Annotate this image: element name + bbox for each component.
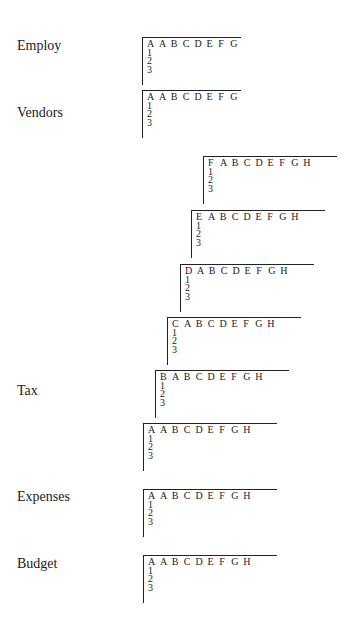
column-header: C bbox=[232, 213, 244, 222]
row-number: 3 bbox=[160, 399, 267, 408]
column-header: D bbox=[208, 373, 220, 382]
column-header: A bbox=[172, 373, 184, 382]
row-number: 3 bbox=[148, 518, 255, 527]
sheet-grid: FABCDEFGH123 bbox=[208, 159, 315, 193]
row-number: 3 bbox=[148, 584, 255, 593]
column-header: G bbox=[279, 213, 291, 222]
row-number: 3 bbox=[185, 293, 292, 302]
column-header: D bbox=[196, 426, 208, 435]
sheet-grid: CABCDEFGH123 bbox=[172, 320, 279, 354]
row-number: 2 bbox=[196, 230, 303, 239]
column-header: A bbox=[160, 426, 172, 435]
column-header: H bbox=[243, 492, 255, 501]
sheet-grid: AABCDEFGH123 bbox=[148, 492, 255, 526]
sheet-grid: AABCDEFGH123 bbox=[148, 558, 255, 592]
column-header: B bbox=[172, 426, 184, 435]
column-header: A bbox=[159, 40, 171, 49]
row-number: 3 bbox=[172, 346, 279, 355]
sheet-grid: BABCDEFGH123 bbox=[160, 373, 267, 407]
column-header: G bbox=[231, 426, 243, 435]
row-number: 1 bbox=[148, 501, 255, 510]
row-number: 2 bbox=[148, 575, 255, 584]
column-header: E bbox=[244, 267, 256, 276]
column-header: A bbox=[220, 159, 232, 168]
row-number: 3 bbox=[147, 66, 242, 75]
column-header: A bbox=[159, 93, 171, 102]
column-header: F bbox=[219, 558, 231, 567]
row-number: 1 bbox=[172, 329, 279, 338]
column-header-row: AABCDEFGH bbox=[148, 558, 255, 567]
column-header: H bbox=[243, 426, 255, 435]
row-number: 1 bbox=[147, 49, 242, 58]
sheet-grid: AABCDEFGH123 bbox=[148, 426, 255, 460]
column-header: E bbox=[207, 558, 219, 567]
column-header: D bbox=[196, 492, 208, 501]
row-number: 1 bbox=[208, 168, 315, 177]
column-header: E bbox=[219, 373, 231, 382]
sheet-vendors: AABCDEFG123 bbox=[142, 90, 241, 138]
column-header: D bbox=[244, 213, 256, 222]
column-header: F bbox=[231, 373, 243, 382]
column-header: E bbox=[206, 40, 218, 49]
column-header: D bbox=[220, 320, 232, 329]
label-expenses: Expenses bbox=[17, 490, 70, 504]
column-header: A bbox=[160, 492, 172, 501]
column-header-row: AABCDEFGH bbox=[148, 492, 255, 501]
column-header: F bbox=[267, 213, 279, 222]
sheet-grid: EABCDEFGH123 bbox=[196, 213, 303, 247]
column-header: G bbox=[268, 267, 280, 276]
row-number: 2 bbox=[160, 390, 267, 399]
column-header: C bbox=[196, 373, 208, 382]
row-number: 1 bbox=[185, 276, 292, 285]
row-number: 3 bbox=[148, 452, 255, 461]
column-header: C bbox=[221, 267, 233, 276]
column-header: E bbox=[267, 159, 279, 168]
sheet-expenses: AABCDEFGH123 bbox=[143, 489, 277, 537]
column-header: G bbox=[230, 40, 242, 49]
sheet-tax-e: EABCDEFGH123 bbox=[191, 210, 325, 258]
sheet-budget: AABCDEFGH123 bbox=[143, 555, 277, 603]
column-header: B bbox=[171, 40, 183, 49]
column-header-row: AABCDEFGH bbox=[148, 426, 255, 435]
column-header-row: EABCDEFGH bbox=[196, 213, 303, 222]
column-header-row: AABCDEFG bbox=[147, 40, 242, 49]
row-number: 2 bbox=[147, 110, 242, 119]
label-vendors: Vendors bbox=[17, 106, 63, 120]
row-number: 3 bbox=[196, 239, 303, 248]
column-header: E bbox=[207, 492, 219, 501]
column-header: D bbox=[256, 159, 268, 168]
row-number: 1 bbox=[196, 222, 303, 231]
column-header: C bbox=[183, 93, 195, 102]
column-header: G bbox=[230, 93, 242, 102]
column-header: E bbox=[207, 426, 219, 435]
sheet-employ: AABCDEFG123 bbox=[142, 37, 241, 85]
column-header: H bbox=[291, 213, 303, 222]
sheet-tax-d: DABCDEFGH123 bbox=[180, 264, 314, 312]
column-header: F bbox=[279, 159, 291, 168]
column-header: E bbox=[255, 213, 267, 222]
column-header: G bbox=[231, 558, 243, 567]
column-header: B bbox=[172, 558, 184, 567]
label-budget: Budget bbox=[17, 557, 57, 571]
column-header: A bbox=[184, 320, 196, 329]
column-header: B bbox=[220, 213, 232, 222]
row-number: 2 bbox=[148, 443, 255, 452]
column-header-row: AABCDEFG bbox=[147, 93, 242, 102]
column-header: D bbox=[195, 40, 207, 49]
row-number: 1 bbox=[147, 102, 242, 111]
label-employ: Employ bbox=[17, 39, 61, 53]
row-number: 3 bbox=[208, 185, 315, 194]
column-header: B bbox=[196, 320, 208, 329]
column-header: H bbox=[303, 159, 315, 168]
column-header: H bbox=[280, 267, 292, 276]
label-tax: Tax bbox=[17, 384, 38, 398]
column-header: D bbox=[196, 558, 208, 567]
column-header: A bbox=[197, 267, 209, 276]
row-number: 3 bbox=[147, 119, 242, 128]
column-header: H bbox=[267, 320, 279, 329]
column-header: F bbox=[218, 93, 230, 102]
row-number: 2 bbox=[172, 337, 279, 346]
row-number: 1 bbox=[160, 382, 267, 391]
sheet-tax-f: FABCDEFGH123 bbox=[203, 156, 337, 204]
column-header: B bbox=[172, 492, 184, 501]
